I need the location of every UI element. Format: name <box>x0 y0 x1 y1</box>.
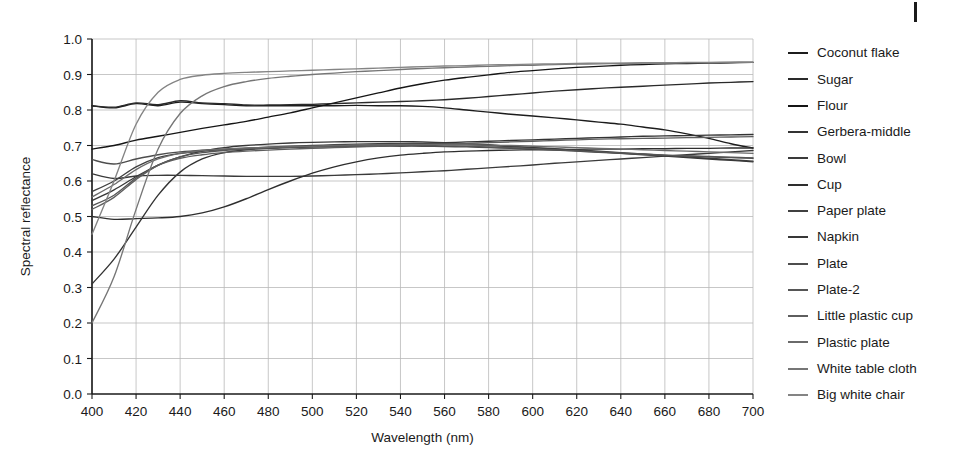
legend-item-label: Coconut flake <box>817 46 900 60</box>
legend-item-label: Plate <box>817 257 848 271</box>
legend-item-label: Big white chair <box>817 388 905 402</box>
x-axis-title: Wavelength (nm) <box>371 430 473 445</box>
legend-item-white-table-cloth: White table cloth <box>788 356 966 382</box>
x-tick-label: 600 <box>521 404 544 419</box>
y-tick-label: 0.3 <box>63 281 82 296</box>
x-tick-label: 580 <box>477 404 500 419</box>
legend-item-cup: Cup <box>788 171 966 197</box>
y-tick-label: 0.0 <box>63 387 82 402</box>
legend-line-swatch <box>788 341 808 343</box>
gridlines <box>92 39 753 394</box>
y-tick-label: 0.2 <box>63 316 82 331</box>
x-tick-labels: 4004204404604805005205405605806006206406… <box>81 404 765 419</box>
spectral-reflectance-figure: 4004204404604805005205405605806006206406… <box>0 0 966 466</box>
legend-item-plate-2: Plate-2 <box>788 277 966 303</box>
legend-item-label: Plastic plate <box>817 336 890 350</box>
legend-item-label: Napkin <box>817 230 859 244</box>
chart-legend: Coconut flakeSugarFlourGerbera-middleBow… <box>788 40 966 408</box>
legend-item-paper-plate: Paper plate <box>788 198 966 224</box>
legend-item-big-white-chair: Big white chair <box>788 382 966 408</box>
y-tick-label: 0.9 <box>63 68 82 83</box>
x-tick-label: 560 <box>433 404 456 419</box>
curve-little-plastic-cup <box>92 137 753 210</box>
y-tick-label: 0.5 <box>63 210 82 225</box>
legend-item-bowl: Bowl <box>788 145 966 171</box>
legend-line-swatch <box>788 105 808 107</box>
legend-line-swatch <box>788 289 808 291</box>
y-tick-label: 0.6 <box>63 174 82 189</box>
y-tick-label: 0.1 <box>63 352 82 367</box>
x-tick-label: 520 <box>345 404 368 419</box>
x-tick-label: 420 <box>125 404 148 419</box>
legend-item-label: White table cloth <box>817 362 917 376</box>
y-tick-label: 0.8 <box>63 103 82 118</box>
legend-line-swatch <box>788 315 808 317</box>
x-tick-label: 700 <box>742 404 765 419</box>
legend-line-swatch <box>788 78 808 80</box>
legend-item-sugar: Sugar <box>788 66 966 92</box>
curve-coconut-flake <box>92 102 753 148</box>
y-tick-label: 1.0 <box>63 32 82 47</box>
x-tick-label: 680 <box>698 404 721 419</box>
axis-ticks <box>87 39 753 399</box>
y-axis-title: Spectral reflectance <box>18 157 33 276</box>
legend-item-label: Paper plate <box>817 204 886 218</box>
legend-line-swatch <box>788 210 808 212</box>
legend-item-label: Gerbera-middle <box>817 125 911 139</box>
x-tick-label: 500 <box>301 404 324 419</box>
y-tick-label: 0.7 <box>63 139 82 154</box>
y-tick-labels: 0.00.10.20.30.40.50.60.70.80.91.0 <box>63 32 82 402</box>
legend-item-plastic-plate: Plastic plate <box>788 329 966 355</box>
x-tick-label: 620 <box>565 404 588 419</box>
legend-item-label: Flour <box>817 99 848 113</box>
x-tick-label: 640 <box>610 404 633 419</box>
x-tick-label: 460 <box>213 404 236 419</box>
legend-item-label: Bowl <box>817 152 846 166</box>
legend-line-swatch <box>788 368 808 370</box>
legend-line-swatch <box>788 394 808 396</box>
x-tick-label: 400 <box>81 404 104 419</box>
x-tick-label: 660 <box>654 404 677 419</box>
legend-item-label: Sugar <box>817 73 853 87</box>
legend-line-swatch <box>788 236 808 238</box>
legend-item-little-plastic-cup: Little plastic cup <box>788 303 966 329</box>
x-tick-label: 540 <box>389 404 412 419</box>
curve-cup <box>92 148 753 219</box>
legend-item-coconut-flake: Coconut flake <box>788 40 966 66</box>
legend-line-swatch <box>788 52 808 54</box>
data-curves <box>92 62 753 323</box>
legend-item-flour: Flour <box>788 93 966 119</box>
legend-item-label: Little plastic cup <box>817 309 913 323</box>
curve-plastic-plate <box>92 144 753 197</box>
legend-item-label: Plate-2 <box>817 283 860 297</box>
legend-line-swatch <box>788 184 808 186</box>
legend-line-swatch <box>788 263 808 265</box>
legend-item-gerbera-middle: Gerbera-middle <box>788 119 966 145</box>
x-tick-label: 440 <box>169 404 192 419</box>
legend-item-label: Cup <box>817 178 842 192</box>
y-tick-label: 0.4 <box>63 245 82 260</box>
legend-item-napkin: Napkin <box>788 224 966 250</box>
legend-line-swatch <box>788 157 808 159</box>
legend-item-plate: Plate <box>788 250 966 276</box>
legend-line-swatch <box>788 131 808 133</box>
x-tick-label: 480 <box>257 404 280 419</box>
